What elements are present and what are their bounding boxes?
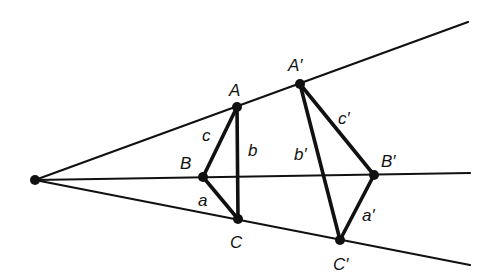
label-B-prime: B′ xyxy=(381,152,396,171)
label-C: C xyxy=(230,233,243,252)
center-point xyxy=(30,175,40,185)
perspective-triangles-diagram: A B C A′ B′ C′ c b a c′ b′ a′ xyxy=(0,0,498,278)
vertex-C xyxy=(233,214,243,224)
ray-through-B xyxy=(35,173,470,180)
label-side-a-prime: a′ xyxy=(362,206,375,225)
vertex-A-prime xyxy=(295,79,305,89)
label-side-b: b xyxy=(248,141,257,160)
label-side-a: a xyxy=(198,191,207,210)
side-a xyxy=(203,177,238,219)
label-C-prime: C′ xyxy=(333,255,349,274)
label-A: A xyxy=(228,81,240,100)
vertex-B-prime xyxy=(369,170,379,180)
vertex-B xyxy=(198,172,208,182)
label-side-c: c xyxy=(202,126,211,145)
vertex-C-prime xyxy=(335,235,345,245)
label-A-prime: A′ xyxy=(287,56,303,75)
side-b xyxy=(237,107,238,219)
vertex-A xyxy=(232,102,242,112)
label-side-b-prime: b′ xyxy=(294,145,307,164)
label-B: B xyxy=(180,154,191,173)
label-side-c-prime: c′ xyxy=(338,109,351,128)
ray-through-C xyxy=(35,180,470,265)
